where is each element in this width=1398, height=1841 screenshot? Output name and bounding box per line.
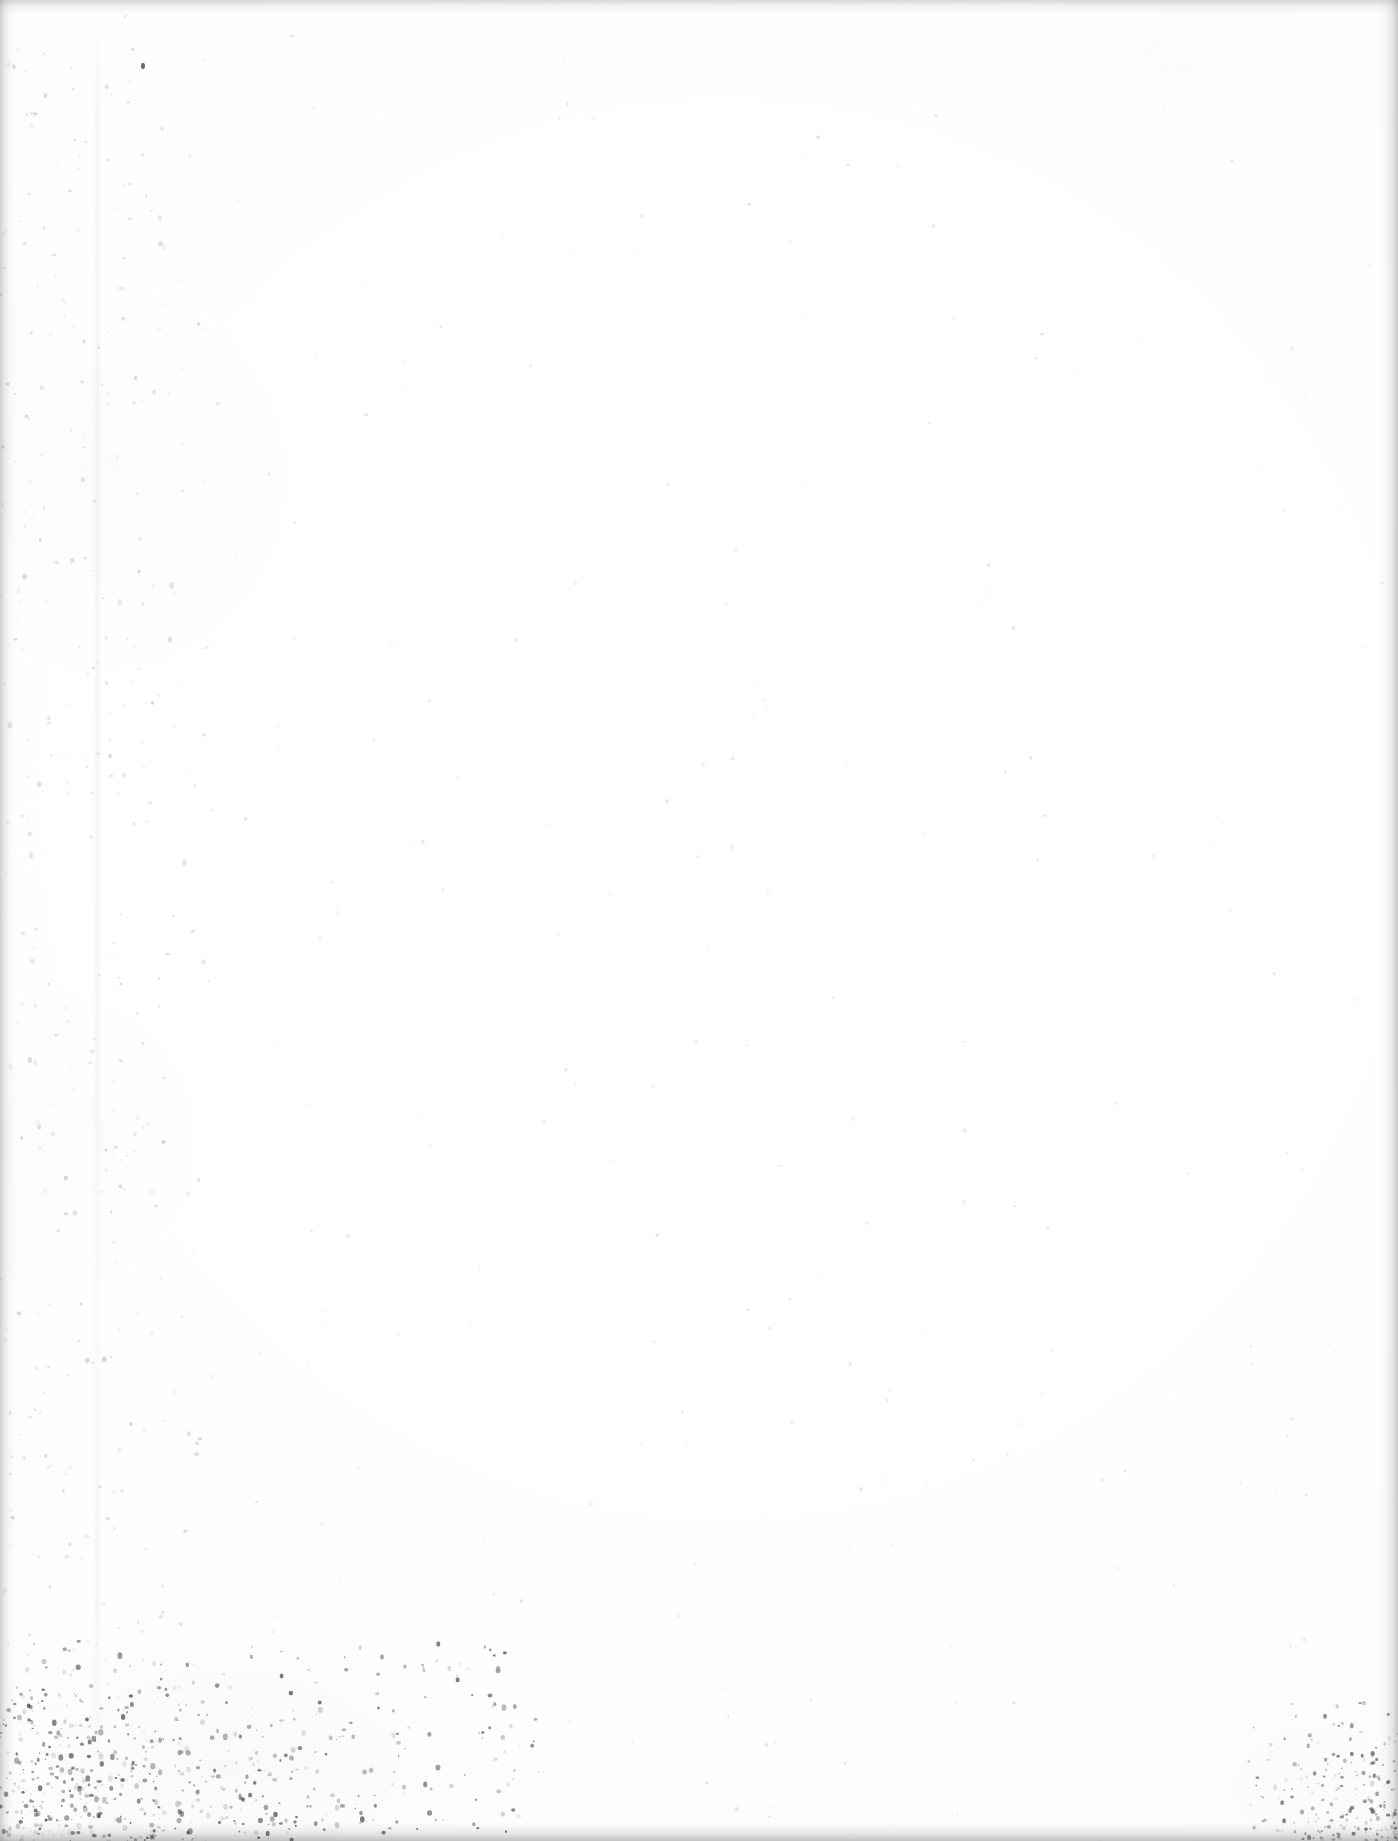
bottom-left-speckle-svg (0, 1640, 540, 1841)
paper-surface (0, 0, 1398, 1841)
paper-tone-variation (0, 0, 1398, 1841)
page-dust-svg (0, 0, 1398, 1841)
speck-top-left (141, 63, 145, 69)
left-margin-dust (0, 40, 210, 1740)
bottom-edge-shadow (0, 1821, 1398, 1841)
bottom-right-speckle (1240, 1700, 1398, 1841)
page-dust (0, 0, 1398, 1841)
gutter-streak (93, 18, 102, 1808)
right-edge-shadow (1378, 0, 1398, 1841)
scanned-page: Blank scanned page — no printed text, fi… (0, 0, 1398, 1841)
left-edge-shadow (0, 0, 16, 1841)
bottom-right-speckle-svg (1240, 1700, 1398, 1841)
bottom-left-speckle (0, 1640, 540, 1841)
top-edge-shadow (0, 0, 1398, 14)
left-margin-dust-svg (0, 40, 210, 1740)
